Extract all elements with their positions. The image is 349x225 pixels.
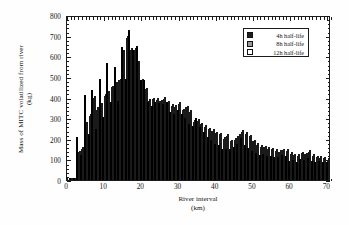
bar	[225, 149, 227, 180]
x-axis-minor-tick	[167, 17, 168, 20]
x-axis-tick	[179, 17, 180, 21]
y-axis-tick-label: 400	[50, 94, 61, 103]
x-axis-minor-tick	[331, 179, 332, 182]
x-axis-minor-tick	[201, 17, 202, 20]
bar	[166, 102, 168, 180]
x-axis-minor-tick	[89, 17, 90, 20]
y-axis-minor-tick	[328, 111, 330, 112]
y-axis-minor-tick	[67, 94, 69, 95]
bar	[128, 30, 130, 180]
bar	[255, 153, 257, 180]
x-axis-minor-tick	[309, 17, 310, 20]
x-axis-tick-label: 10	[100, 182, 107, 191]
x-axis-tick-label: 70	[323, 182, 330, 191]
x-axis-minor-tick	[175, 17, 176, 20]
x-axis-tick	[104, 17, 105, 21]
bar	[158, 103, 160, 180]
x-axis-tick	[141, 17, 142, 21]
y-axis-minor-tick	[328, 20, 330, 21]
bar	[199, 127, 201, 180]
y-axis-minor-tick	[328, 24, 330, 25]
bar	[244, 145, 246, 180]
y-axis-title-line1: Mass of MITC volatilized from river	[17, 44, 25, 152]
bar	[285, 156, 287, 180]
legend-swatch-icon	[247, 32, 253, 38]
bar	[76, 137, 78, 180]
x-axis-tick	[67, 17, 68, 21]
y-axis-tick	[326, 119, 330, 120]
x-axis-minor-tick	[108, 17, 109, 20]
bar	[117, 101, 119, 180]
bar	[143, 80, 145, 180]
y-axis-tick	[67, 99, 71, 100]
bar	[69, 178, 71, 180]
y-axis-minor-tick	[67, 70, 69, 71]
x-axis-minor-tick	[286, 17, 287, 20]
bar	[281, 155, 283, 180]
y-axis-minor-tick	[328, 82, 330, 83]
bar	[102, 117, 104, 180]
x-axis-tick-label: 20	[137, 182, 144, 191]
x-axis-minor-tick	[312, 17, 313, 20]
x-axis-tick	[290, 17, 291, 21]
y-axis-minor-tick	[328, 28, 330, 29]
bar	[151, 106, 153, 180]
x-axis-minor-tick	[156, 17, 157, 20]
legend-label: 12h half-life	[256, 49, 305, 56]
y-axis-minor-tick	[67, 86, 69, 87]
x-axis-minor-tick	[316, 17, 317, 20]
x-axis-minor-tick	[193, 17, 194, 20]
x-axis-minor-tick	[242, 17, 243, 20]
x-axis-minor-tick	[257, 17, 258, 20]
y-axis-tick-label: 0	[57, 177, 61, 186]
x-axis-minor-tick	[164, 17, 165, 20]
y-axis-tick-label: 500	[50, 73, 61, 82]
y-axis-tick	[326, 37, 330, 38]
y-axis-minor-tick	[328, 115, 330, 116]
y-axis-tick-label: 600	[50, 53, 61, 62]
bar	[314, 162, 316, 180]
bar	[229, 149, 231, 180]
x-axis-tick-label: 30	[174, 182, 181, 191]
y-axis-minor-tick	[67, 148, 69, 149]
y-axis-minor-tick	[328, 123, 330, 124]
x-axis-minor-tick	[112, 17, 113, 20]
x-axis-tick	[216, 17, 217, 21]
x-axis-title-line2: (km)	[66, 204, 330, 213]
bar	[147, 102, 149, 180]
y-axis-minor-tick	[67, 28, 69, 29]
bar	[188, 124, 190, 180]
bar	[240, 138, 242, 180]
bar	[311, 161, 313, 180]
y-axis-minor-tick	[328, 156, 330, 157]
x-axis-minor-tick	[119, 17, 120, 20]
x-axis-minor-tick	[93, 17, 94, 20]
x-axis-minor-tick	[305, 17, 306, 20]
bar	[184, 118, 186, 180]
x-axis-title-line1: River interval	[178, 195, 217, 203]
x-axis-tick	[327, 17, 328, 21]
bar	[73, 178, 75, 180]
bar	[173, 114, 175, 180]
x-axis-minor-tick	[279, 17, 280, 20]
x-axis-minor-tick	[223, 17, 224, 20]
bar	[132, 50, 134, 180]
bar	[266, 156, 268, 180]
y-axis-minor-tick	[67, 74, 69, 75]
legend: 4h half-life8h half-life12h half-life	[243, 28, 309, 57]
x-axis-minor-tick	[145, 17, 146, 20]
bar	[154, 102, 156, 180]
x-axis-minor-tick	[298, 17, 299, 20]
y-axis-minor-tick	[67, 144, 69, 145]
y-axis-tick	[67, 160, 71, 161]
y-axis-minor-tick	[328, 107, 330, 108]
x-axis-minor-tick	[126, 17, 127, 20]
y-axis-tick	[67, 78, 71, 79]
y-axis-minor-tick	[328, 41, 330, 42]
x-axis-minor-tick	[238, 17, 239, 20]
x-axis-tick-label: 40	[211, 182, 218, 191]
y-axis-minor-tick	[67, 66, 69, 67]
y-axis-minor-tick	[328, 90, 330, 91]
y-axis-minor-tick	[67, 156, 69, 157]
legend-item: 4h half-life	[247, 31, 305, 39]
